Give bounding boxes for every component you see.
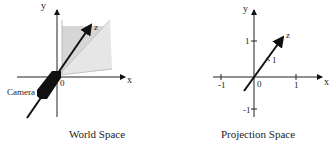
proj-x-label: x — [324, 76, 329, 87]
proj-z-tick-1: 1 — [272, 55, 277, 65]
camera-label: Camera — [7, 87, 35, 97]
world-y-label: y — [41, 0, 46, 11]
coordinate-spaces-diagram: y x z 0 Camera World Space y x z 0 -1 1 … — [0, 0, 334, 149]
world-space-caption: World Space — [69, 128, 125, 140]
world-space-panel: y x z 0 Camera World Space — [7, 0, 132, 140]
proj-y-tick-neg1: -1 — [243, 105, 251, 115]
proj-x-tick-1: 1 — [294, 80, 299, 90]
projection-space-panel: y x z 0 -1 1 1 -1 1 Projection Space — [213, 3, 329, 140]
proj-x-tick-neg1: -1 — [218, 80, 226, 90]
world-z-label: z — [94, 22, 98, 32]
proj-z-label: z — [286, 30, 290, 40]
proj-y-tick-1: 1 — [245, 36, 250, 46]
world-origin-label: 0 — [60, 78, 65, 88]
world-x-label: x — [127, 74, 132, 85]
proj-z-axis — [244, 37, 283, 91]
projection-space-caption: Projection Space — [221, 128, 295, 140]
proj-y-label: y — [243, 3, 248, 14]
proj-origin-label: 0 — [257, 79, 262, 89]
